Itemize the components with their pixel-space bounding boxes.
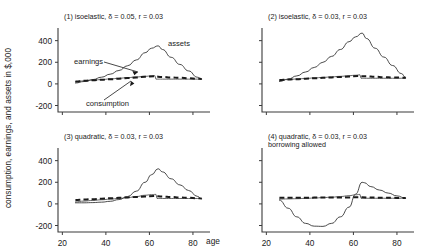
y-tick-label: 0 xyxy=(47,199,52,209)
y-tick-label: 200 xyxy=(38,177,52,187)
x-tick-label: 60 xyxy=(145,238,155,248)
panel-3-title: (3) quadratic, δ = 0.03, r = 0.03 xyxy=(64,132,163,141)
panel-4-series-assets xyxy=(279,182,405,226)
panel-2-title: (2) isoelastic, δ = 0.03, r = 0.03 xyxy=(268,12,367,21)
panel-4-axes xyxy=(262,148,414,232)
panel-2-series-assets xyxy=(279,33,405,81)
panel-2: (2) isoelastic, δ = 0.03, r = 0.03 xyxy=(259,12,414,115)
panel-3: (3) quadratic, δ = 0.03, r = 0.03-200020… xyxy=(35,132,210,248)
panel-4-series-consumption xyxy=(279,197,405,198)
y-tick-label: 200 xyxy=(38,57,52,67)
chart-svg: consumption, earnings, and assets in $,0… xyxy=(0,0,426,248)
consumption-arrowhead xyxy=(130,81,134,86)
panel-2-series-consumption xyxy=(279,76,405,80)
y-tick-label: 0 xyxy=(47,79,52,89)
x-axis-title: age xyxy=(206,236,220,246)
y-tick-label: 400 xyxy=(38,36,52,46)
panels-group: (1) isoelastic, δ = 0.05, r = 0.03-20002… xyxy=(35,12,414,248)
x-tick-label: 20 xyxy=(58,238,68,248)
panel-4: (4) quadratic, δ = 0.03, r = 0.03borrowi… xyxy=(259,132,414,248)
x-tick-label: 80 xyxy=(188,238,198,248)
panel-4-subtitle: borrowing allowed xyxy=(268,140,326,149)
earnings-label: earnings xyxy=(74,57,103,66)
panel-1: (1) isoelastic, δ = 0.05, r = 0.03-20002… xyxy=(35,12,210,115)
y-tick-label: -200 xyxy=(35,221,52,231)
panel-1-title: (1) isoelastic, δ = 0.05, r = 0.03 xyxy=(64,12,163,21)
consumption-arrow xyxy=(104,81,131,100)
y-axis-title: consumption, earnings, and assets in $,0… xyxy=(3,48,13,208)
x-tick-label: 40 xyxy=(101,238,111,248)
y-tick-label: 400 xyxy=(38,156,52,166)
consumption-label: consumption xyxy=(86,99,129,108)
chart-figure: consumption, earnings, and assets in $,0… xyxy=(0,0,426,248)
x-tick-label: 40 xyxy=(305,238,315,248)
earnings-arrow xyxy=(104,62,138,72)
x-tick-label: 60 xyxy=(349,238,359,248)
x-tick-label: 80 xyxy=(392,238,402,248)
x-tick-label: 20 xyxy=(262,238,272,248)
panel-2-axes xyxy=(262,28,414,112)
y-tick-label: -200 xyxy=(35,101,52,111)
assets-label: assets xyxy=(168,39,190,48)
